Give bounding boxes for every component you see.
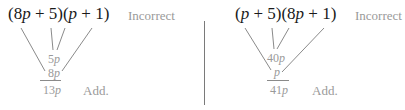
left-panel: (8p + 5)(p + 1) Incorrect 5p 8p 13p Add. <box>0 0 200 110</box>
right-inner-term: 40p <box>267 51 285 66</box>
left-sum-line <box>40 80 61 81</box>
term-number: 40 <box>267 51 279 65</box>
right-sum-line <box>267 80 289 81</box>
term-variable: p <box>54 52 60 66</box>
left-action-label: Add. <box>83 83 109 99</box>
term-variable: p <box>279 51 285 65</box>
term-variable: p <box>54 66 60 80</box>
right-connector-lines <box>205 0 405 110</box>
right-outer-term: p <box>274 65 280 80</box>
term-number: 41 <box>270 83 282 97</box>
term-variable: p <box>282 83 288 97</box>
term-variable: p <box>274 65 280 79</box>
term-number: 13 <box>43 83 55 97</box>
left-sum-term: 13p <box>43 83 61 98</box>
left-outer-term: 8p <box>48 66 60 81</box>
left-inner-term: 5p <box>48 52 60 67</box>
term-variable: p <box>55 83 61 97</box>
right-panel: (p + 5)(8p + 1) Incorrect 40p p 41p Add. <box>205 0 405 110</box>
right-sum-term: 41p <box>270 83 288 98</box>
right-action-label: Add. <box>312 83 338 99</box>
